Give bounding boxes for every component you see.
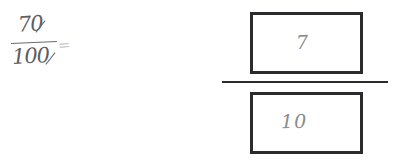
answer-denominator-value: 10 (281, 110, 308, 132)
worksheet-canvas: 70 100 = 7 10 (0, 0, 398, 166)
answer-fraction-bar (222, 81, 388, 83)
handwritten-numerator: 70 (17, 11, 43, 37)
equals-sign: = (57, 35, 71, 54)
answer-numerator-value: 7 (295, 31, 309, 54)
handwritten-denominator: 100 (11, 43, 49, 69)
